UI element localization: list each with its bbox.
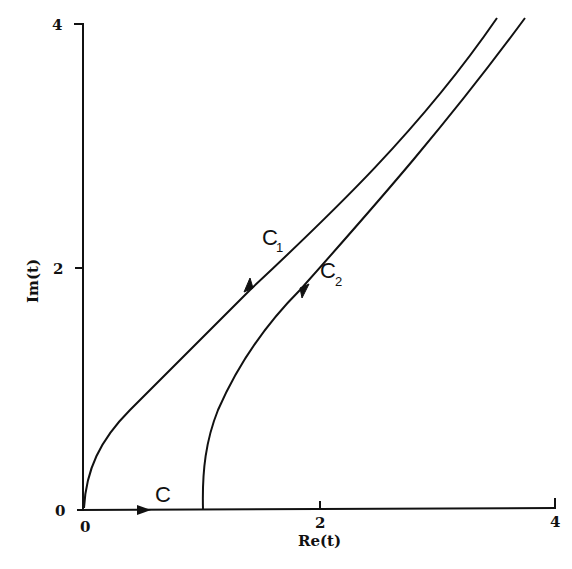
y-axis-title: Im(t) <box>24 259 42 303</box>
svg-text:1: 1 <box>276 240 283 255</box>
y-tick-label-0: 0 <box>55 502 65 520</box>
x-tick-label-0: 0 <box>80 518 90 536</box>
contour-diagram: 4 2 0 0 2 4 Re(t) Im(t) C C 1 C 2 <box>0 0 572 569</box>
contour-c2 <box>203 18 525 509</box>
svg-text:2: 2 <box>335 274 342 289</box>
label-c2: C 2 <box>320 258 342 289</box>
svg-text:C: C <box>320 258 336 283</box>
label-c: C <box>155 482 171 507</box>
x-tick-label-4: 4 <box>550 513 560 531</box>
c2-arrow-icon <box>300 284 309 298</box>
y-tick-label-2: 2 <box>53 260 63 278</box>
x-tick-label-2: 2 <box>315 514 325 532</box>
c-arrow-icon <box>137 505 151 515</box>
c1-arrow-icon <box>244 278 253 292</box>
contour-c1 <box>84 18 497 508</box>
y-tick-label-4: 4 <box>52 16 62 34</box>
label-c1: C 1 <box>262 225 283 255</box>
x-axis-title: Re(t) <box>298 532 341 550</box>
axes <box>74 24 556 510</box>
